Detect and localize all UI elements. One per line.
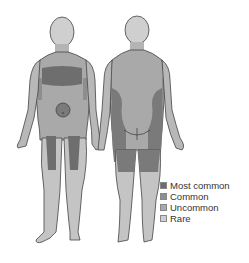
front-body-figure bbox=[17, 17, 100, 243]
legend-label: Uncommon bbox=[170, 202, 219, 213]
legend-label: Common bbox=[170, 191, 209, 202]
legend-item-common: Common bbox=[160, 191, 230, 202]
swatch-uncommon bbox=[160, 204, 167, 211]
legend-label: Most common bbox=[170, 180, 230, 191]
legend-item-uncommon: Uncommon bbox=[160, 202, 230, 213]
back-left-arm bbox=[98, 60, 112, 150]
front-torso bbox=[36, 52, 91, 140]
back-right-arm bbox=[162, 60, 184, 150]
swatch-common bbox=[160, 193, 167, 200]
back-head bbox=[125, 16, 149, 44]
legend-item-rare: Rare bbox=[160, 213, 230, 224]
abdomen-site bbox=[56, 103, 70, 117]
legend-label: Rare bbox=[170, 213, 191, 224]
front-head bbox=[50, 17, 74, 47]
legend-item-most-common: Most common bbox=[160, 180, 230, 191]
swatch-rare bbox=[160, 215, 167, 222]
swatch-most-common bbox=[160, 182, 167, 189]
legend: Most common Common Uncommon Rare bbox=[160, 180, 230, 224]
